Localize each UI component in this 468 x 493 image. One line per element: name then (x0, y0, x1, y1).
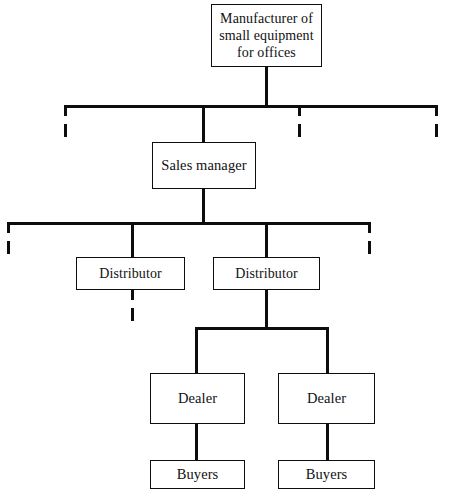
node-dealer-left-label: Dealer (174, 390, 221, 408)
connector-dashed-stub-distributor-left (131, 289, 134, 325)
connector-bus3-to-dealer-right (326, 327, 329, 375)
connector-dashed-stub-left-bus2 (7, 222, 10, 258)
node-dealer-right-label: Dealer (303, 390, 350, 408)
node-manufacturer-label: Manufacturer of small equipment for offi… (212, 10, 321, 61)
node-buyers-left: Buyers (150, 460, 245, 489)
connector-dashed-stub-left-bus1 (64, 105, 67, 141)
connector-dealer-left-to-buyers-left (195, 423, 198, 462)
node-buyers-left-label: Buyers (173, 466, 223, 484)
connector-distributor-right-to-bus3 (265, 289, 268, 329)
connector-bus1-to-sales-manager (202, 105, 205, 144)
node-buyers-right: Buyers (278, 460, 375, 489)
connector-bus-sales-manager (7, 222, 371, 225)
connector-dashed-stub-right-bus1 (435, 105, 438, 141)
org-chart-diagram: Manufacturer of small equipment for offi… (0, 0, 468, 493)
node-distributor-left-label: Distributor (95, 265, 166, 282)
connector-dealer-right-to-buyers-right (326, 423, 329, 462)
connector-bus2-to-distributor-right (265, 222, 268, 258)
node-distributor-right: Distributor (213, 257, 320, 290)
connector-sales-manager-to-bus2 (202, 187, 205, 224)
connector-bus-manufacturer (64, 105, 438, 108)
node-sales-manager: Sales manager (152, 142, 256, 189)
node-manufacturer: Manufacturer of small equipment for offi… (211, 4, 322, 67)
node-dealer-right: Dealer (278, 373, 375, 424)
connector-bus2-to-distributor-left (131, 222, 134, 258)
node-buyers-right-label: Buyers (302, 466, 352, 484)
connector-bus3-to-dealer-left (195, 327, 198, 375)
connector-dashed-stub-mid-bus1 (298, 105, 301, 141)
connector-manufacturer-to-bus1 (265, 66, 268, 107)
connector-dashed-stub-right-bus2 (368, 222, 371, 258)
node-dealer-left: Dealer (150, 373, 245, 424)
node-distributor-right-label: Distributor (231, 265, 302, 282)
connector-bus-distributor-right (195, 327, 329, 330)
node-distributor-left: Distributor (76, 257, 185, 290)
node-sales-manager-label: Sales manager (157, 157, 250, 175)
